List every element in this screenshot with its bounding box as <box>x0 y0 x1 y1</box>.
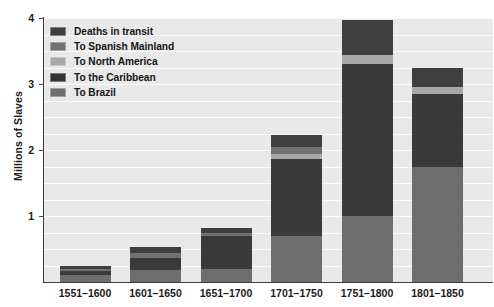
bar-group[interactable] <box>60 266 111 282</box>
legend-item[interactable]: To the Caribbean <box>50 70 230 85</box>
x-axis-tick-label: 1551–1600 <box>59 287 112 299</box>
legend-item-label: To Brazil <box>74 87 116 98</box>
bar-segment[interactable] <box>271 159 322 236</box>
bar-segment[interactable] <box>201 233 252 236</box>
legend-item-label: To Spanish Mainland <box>74 41 174 52</box>
x-axis-tick-layer: 1551–16001601–16501651–17001701–17501751… <box>0 287 494 307</box>
legend-item-label: To North America <box>74 56 158 67</box>
y-axis-tick-layer: 1234 <box>0 0 44 307</box>
legend-color-swatch <box>50 27 66 36</box>
bar-group[interactable] <box>412 68 463 282</box>
legend-item-label: Deaths in transit <box>74 26 153 37</box>
bar-segment[interactable] <box>201 228 252 233</box>
bar-segment[interactable] <box>271 154 322 159</box>
x-axis-tick-label: 1601–1650 <box>129 287 182 299</box>
legend-item[interactable]: Deaths in transit <box>50 24 230 39</box>
x-axis-tick-label: 1651–1700 <box>200 287 253 299</box>
bar-segment[interactable] <box>130 270 181 282</box>
bar-segment[interactable] <box>60 269 111 271</box>
legend-color-swatch <box>50 88 66 97</box>
legend-item[interactable]: To North America <box>50 54 230 69</box>
legend-color-swatch <box>50 73 66 82</box>
y-axis-tick-label: 3 <box>28 78 34 90</box>
bar-segment[interactable] <box>412 87 463 94</box>
bar-segment[interactable] <box>130 253 181 258</box>
y-axis-tick-label: 2 <box>28 144 34 156</box>
stacked-bar-chart: Millions of Slaves 1234 Deaths in transi… <box>0 0 494 307</box>
bar-segment[interactable] <box>412 167 463 283</box>
bar-group[interactable] <box>342 20 393 282</box>
bar-segment[interactable] <box>60 275 111 282</box>
bar-segment[interactable] <box>201 269 252 282</box>
chart-legend: Deaths in transitTo Spanish MainlandTo N… <box>50 24 230 100</box>
bar-segment[interactable] <box>342 55 393 64</box>
y-axis-tick-label: 1 <box>28 210 34 222</box>
legend-item[interactable]: To Spanish Mainland <box>50 39 230 54</box>
bar-segment[interactable] <box>271 236 322 282</box>
bar-group[interactable] <box>271 135 322 282</box>
legend-item[interactable]: To Brazil <box>50 85 230 100</box>
bar-group[interactable] <box>130 247 181 282</box>
bar-segment[interactable] <box>412 94 463 167</box>
legend-item-label: To the Caribbean <box>74 72 156 83</box>
x-axis-tick-label: 1751–1800 <box>341 287 394 299</box>
legend-color-swatch <box>50 42 66 51</box>
bar-segment[interactable] <box>60 266 111 269</box>
x-axis-line <box>43 282 493 283</box>
bar-segment[interactable] <box>60 271 111 275</box>
bar-group[interactable] <box>201 228 252 282</box>
bar-segment[interactable] <box>412 68 463 86</box>
bar-segment[interactable] <box>271 135 322 148</box>
bar-segment[interactable] <box>342 216 393 282</box>
x-axis-tick-label: 1801–1850 <box>411 287 464 299</box>
legend-color-swatch <box>50 57 66 66</box>
bar-segment[interactable] <box>130 247 181 253</box>
bar-segment[interactable] <box>342 20 393 55</box>
bar-segment[interactable] <box>201 236 252 269</box>
bar-segment[interactable] <box>130 258 181 271</box>
y-axis-tick-label: 4 <box>28 12 34 24</box>
bar-segment[interactable] <box>271 147 322 154</box>
bar-segment[interactable] <box>342 64 393 216</box>
x-axis-tick-label: 1701–1750 <box>270 287 323 299</box>
